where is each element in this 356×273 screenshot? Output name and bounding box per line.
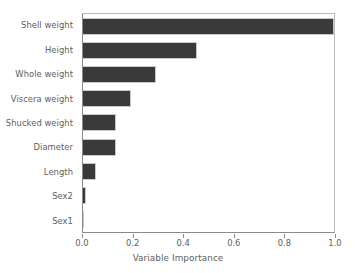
x-axis-title: Variable Importance	[0, 253, 356, 263]
bar-shell-weight	[83, 18, 334, 35]
bar-row	[83, 111, 334, 135]
bar-row	[83, 87, 334, 111]
bar-row	[83, 62, 334, 86]
y-axis-label-shell-weight: Shell weight	[0, 13, 78, 37]
y-axis-label-viscera-weight: Viscera weight	[0, 86, 78, 110]
y-axis-label-diameter: Diameter	[0, 135, 78, 159]
bar-height	[83, 42, 197, 59]
bar-whole-weight	[83, 66, 156, 83]
x-axis-tick-label: 0.4	[177, 238, 190, 248]
bar-row	[83, 159, 334, 183]
y-axis-label-sex1: Sex1	[0, 209, 78, 233]
y-axis-label-length: Length	[0, 160, 78, 184]
bar-series	[83, 14, 334, 232]
bar-row	[83, 184, 334, 208]
variable-importance-chart: Shell weight Height Whole weight Viscera…	[0, 0, 356, 273]
bar-row	[83, 135, 334, 159]
bar-row	[83, 14, 334, 38]
y-axis-label-shucked-weight: Shucked weight	[0, 111, 78, 135]
bar-viscera-weight	[83, 90, 131, 107]
y-axis-label-height: Height	[0, 37, 78, 61]
x-axis-tick-label: 0.0	[75, 238, 88, 248]
bar-row	[83, 208, 334, 232]
x-axis-tick-label: 0.8	[278, 238, 291, 248]
bar-shucked-weight	[83, 114, 116, 131]
bar-row	[83, 38, 334, 62]
y-axis-label-whole-weight: Whole weight	[0, 62, 78, 86]
plot-area	[82, 13, 335, 233]
y-axis-category-labels: Shell weight Height Whole weight Viscera…	[0, 13, 78, 233]
x-axis-ticks: 0.00.20.40.60.81.0	[82, 234, 335, 240]
x-axis-tick-label: 1.0	[328, 238, 341, 248]
x-axis-tick-label: 0.6	[227, 238, 240, 248]
bar-diameter	[83, 139, 116, 156]
bar-length	[83, 163, 96, 180]
bar-sex1	[83, 211, 84, 228]
bar-sex2	[83, 187, 86, 204]
y-axis-label-sex2: Sex2	[0, 184, 78, 208]
x-axis-tick-label: 0.2	[126, 238, 139, 248]
